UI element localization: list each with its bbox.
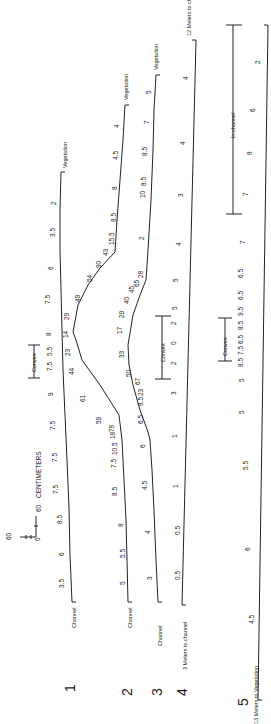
value: 6 xyxy=(249,108,256,112)
value: 5 xyxy=(171,306,178,310)
profile-5-in-channel: In channel xyxy=(230,113,236,138)
profile-2-start: Channel xyxy=(127,608,133,629)
value: 54 xyxy=(86,274,93,282)
scale-zero: 0 xyxy=(34,537,41,541)
profile-3-end: Vegetation xyxy=(153,44,159,70)
value: 3.5 xyxy=(58,579,65,588)
cross-section-diagram: 1 2 3 4 5 60 0 60 CENTIMETERS Channel Ve… xyxy=(0,0,271,724)
value: 6 xyxy=(244,547,251,551)
value: 61 xyxy=(79,394,86,402)
value: 2 xyxy=(170,361,177,365)
profile-4: 3 Meters to channel 12 Meters to channel… xyxy=(155,0,196,670)
value: 65 xyxy=(133,279,140,287)
value: 4 xyxy=(175,242,182,246)
value: 0.5 xyxy=(174,571,181,580)
value: 43 xyxy=(102,248,109,256)
profile-number-3: 3 xyxy=(149,688,165,696)
value: 5.5 xyxy=(119,549,126,558)
value: 50 xyxy=(125,369,132,377)
value: 15.5 xyxy=(108,232,115,245)
value: 7 xyxy=(239,240,246,244)
profile-1-end: Vegetation xyxy=(62,142,68,168)
value: 7.5 xyxy=(51,453,58,462)
value: 7.5 xyxy=(52,485,59,494)
value: 3 xyxy=(170,391,177,395)
value: 8 xyxy=(111,186,118,190)
value: 8.5 xyxy=(56,515,63,524)
value: 8.5 xyxy=(110,213,117,222)
value: 49 xyxy=(74,294,81,302)
scale-max-side: 60 xyxy=(5,532,12,540)
value: 90 xyxy=(95,260,102,268)
value: 6 xyxy=(47,266,54,270)
value: 2 xyxy=(170,321,177,325)
value: 8 xyxy=(246,151,253,155)
profile-5: 13 Meters to Vegetation Convex In channe… xyxy=(218,25,268,724)
value: 4 xyxy=(182,76,189,80)
value: 4.5 xyxy=(248,615,255,624)
value: 4.5 xyxy=(112,151,119,160)
value: 6.5 xyxy=(237,269,244,278)
profile-4-convex: Convex xyxy=(160,343,166,362)
value: 0 xyxy=(170,341,177,345)
value: 4.5 xyxy=(141,481,148,490)
value: 33 xyxy=(118,350,125,358)
value: 3.5 xyxy=(49,228,56,237)
value: 5 xyxy=(238,410,245,414)
value: 44 xyxy=(68,367,75,375)
value: 7.5 xyxy=(44,295,51,304)
value: 8.5 xyxy=(237,321,244,330)
profile-number-4: 4 xyxy=(174,688,190,696)
profile-number-1: 1 xyxy=(62,684,78,692)
value: 7.5 xyxy=(237,346,244,355)
value: 8.5 xyxy=(137,397,144,406)
value: 4 xyxy=(144,530,151,534)
profile-5-convex: Convex xyxy=(222,337,228,356)
value: 8 xyxy=(117,523,124,527)
value: 9.5 xyxy=(237,307,244,316)
value: 23 xyxy=(64,348,71,356)
profile-1: Channel Vegetation Convex 3.5 6 8.5 7.5 … xyxy=(28,142,77,628)
value: 7.5 xyxy=(110,459,117,468)
value: 6 xyxy=(139,444,146,448)
value: 8.5 xyxy=(111,487,118,496)
value: 7.5 xyxy=(46,362,53,371)
value: 29 xyxy=(118,310,125,318)
value: 0.5 xyxy=(174,526,181,535)
value: 29 xyxy=(63,312,70,320)
value: 5 xyxy=(145,90,152,94)
value: 8.5 xyxy=(237,358,244,367)
value: 8.5 xyxy=(140,177,147,186)
profile-1-start: Channel xyxy=(71,608,77,629)
value: 5.5 xyxy=(46,347,53,356)
value: 28 xyxy=(137,270,144,278)
value: 14 xyxy=(62,330,69,338)
value: 6 xyxy=(58,552,65,556)
value: 3 xyxy=(146,576,153,580)
profile-1-convex: Convex xyxy=(31,353,37,372)
value: 5 xyxy=(238,378,245,382)
value: 5.5 xyxy=(242,461,249,470)
value: 78 xyxy=(108,424,115,432)
profile-4-start: 3 Meters to channel xyxy=(182,622,188,670)
value: 4 xyxy=(113,124,120,128)
value: 8.5 xyxy=(141,147,148,156)
value: 67 xyxy=(134,377,141,385)
value: 1 xyxy=(171,434,178,438)
profile-number-5: 5 xyxy=(235,698,251,706)
value: 59 xyxy=(95,416,102,424)
profile-5-start: 13 Meters to Vegetation xyxy=(253,666,259,724)
scale-bar: 60 0 60 CENTIMETERS xyxy=(5,451,42,541)
value: 7.5 xyxy=(49,421,56,430)
value: 17 xyxy=(116,326,123,334)
value: 3 xyxy=(177,193,184,197)
profile-number-2: 2 xyxy=(119,688,135,696)
value: 6.5 xyxy=(137,415,144,424)
value: 9 xyxy=(47,392,54,396)
value: 40 xyxy=(123,296,130,304)
profile-4-end: 12 Meters to channel xyxy=(186,0,192,36)
value: 1 xyxy=(172,484,179,488)
value: 6.5 xyxy=(237,335,244,344)
value: 7 xyxy=(242,192,249,196)
scale-unit: CENTIMETERS xyxy=(35,451,42,498)
